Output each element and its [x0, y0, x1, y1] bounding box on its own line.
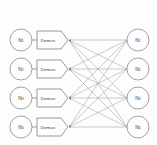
right-node-1[interactable]: N1 [127, 29, 149, 51]
left-node-1[interactable]: N1 [10, 29, 32, 51]
demux-block-3[interactable]: Demux [37, 89, 68, 107]
demux-label: Demux [41, 125, 56, 130]
demux-label: Demux [41, 67, 56, 72]
left-node-4[interactable]: N4 [10, 116, 32, 138]
diagram-canvas: N1N2N3N4 DemuxDemuxDemuxDemux N1N2N3N4 [0, 0, 157, 145]
left-node-2[interactable]: N2 [10, 58, 32, 80]
left-node-group: N1N2N3N4 [10, 29, 32, 138]
demux-label: Demux [41, 96, 56, 101]
demux-label: Demux [41, 38, 56, 43]
demux-block-2[interactable]: Demux [37, 60, 68, 78]
right-node-4[interactable]: N4 [127, 116, 149, 138]
left-node-3[interactable]: N3 [10, 87, 32, 109]
mesh-edge-group [69, 40, 127, 127]
network-diagram: N1N2N3N4 DemuxDemuxDemuxDemux N1N2N3N4 [0, 0, 157, 145]
demux-block-group: DemuxDemuxDemuxDemux [37, 31, 68, 136]
right-node-2[interactable]: N2 [127, 58, 149, 80]
demux-block-4[interactable]: Demux [37, 118, 68, 136]
right-node-group: N1N2N3N4 [127, 29, 149, 138]
stub-connector-group [32, 40, 37, 127]
demux-block-1[interactable]: Demux [37, 31, 68, 49]
right-node-3[interactable]: N3 [127, 87, 149, 109]
